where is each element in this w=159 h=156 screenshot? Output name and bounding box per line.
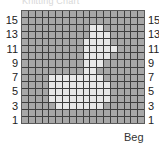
chart-cell	[111, 11, 117, 17]
chart-cell	[90, 39, 96, 45]
chart-cell	[111, 117, 117, 123]
chart-cell	[111, 39, 117, 45]
chart-cell	[118, 18, 124, 24]
chart-cell	[77, 11, 83, 17]
chart-cell	[118, 32, 124, 38]
chart-cell	[29, 110, 35, 116]
chart-cell	[111, 82, 117, 88]
chart-cell	[111, 46, 117, 52]
chart-cell	[56, 25, 62, 31]
row-label: 13	[6, 29, 18, 40]
chart-cell	[131, 39, 137, 45]
chart-cell	[104, 103, 110, 109]
chart-cell	[118, 11, 124, 17]
chart-cell	[49, 46, 55, 52]
chart-cell	[118, 96, 124, 102]
chart-cell	[118, 117, 124, 123]
chart-cell	[22, 89, 28, 95]
chart-cell	[125, 103, 131, 109]
chart-cell	[104, 25, 110, 31]
chart-cell	[77, 96, 83, 102]
chart-cell	[29, 39, 35, 45]
chart-cell	[104, 110, 110, 116]
chart-cell	[90, 75, 96, 81]
chart-cell	[43, 25, 49, 31]
chart-cell	[56, 32, 62, 38]
chart-cell	[36, 75, 42, 81]
chart-cell	[84, 18, 90, 24]
chart-cell	[131, 53, 137, 59]
chart-cell	[63, 110, 69, 116]
chart-cell	[131, 18, 137, 24]
chart-cell	[138, 11, 144, 17]
chart-cell	[49, 39, 55, 45]
chart-cell	[131, 103, 137, 109]
chart-cell	[131, 82, 137, 88]
chart-cell	[90, 46, 96, 52]
chart-cell	[90, 53, 96, 59]
chart-cell	[97, 96, 103, 102]
chart-cell	[77, 25, 83, 31]
row-label: 5	[148, 86, 154, 97]
chart-cell	[70, 110, 76, 116]
chart-cell	[43, 68, 49, 74]
chart-cell	[63, 32, 69, 38]
chart-cell	[90, 117, 96, 123]
chart-cell	[131, 46, 137, 52]
chart-cell	[22, 25, 28, 31]
chart-cell	[49, 110, 55, 116]
chart-cell	[97, 18, 103, 24]
chart-cell	[70, 117, 76, 123]
chart-cell	[43, 110, 49, 116]
chart-cell	[63, 53, 69, 59]
chart-cell	[63, 103, 69, 109]
chart-cell	[104, 32, 110, 38]
chart-cell	[36, 32, 42, 38]
row-label: 13	[148, 29, 159, 40]
chart-cell	[104, 82, 110, 88]
chart-cell	[84, 53, 90, 59]
chart-cell	[70, 89, 76, 95]
chart-cell	[49, 68, 55, 74]
chart-cell	[29, 82, 35, 88]
chart-cell	[131, 110, 137, 116]
chart-cell	[43, 82, 49, 88]
chart-cell	[125, 39, 131, 45]
chart-cell	[111, 110, 117, 116]
chart-cell	[104, 39, 110, 45]
chart-cell	[90, 25, 96, 31]
chart-cell	[63, 39, 69, 45]
chart-cell	[70, 46, 76, 52]
chart-cell	[29, 68, 35, 74]
row-label: 7	[148, 72, 154, 83]
chart-cell	[49, 82, 55, 88]
chart-cell	[70, 96, 76, 102]
chart-cell	[63, 68, 69, 74]
chart-cell	[29, 117, 35, 123]
chart-cell	[97, 25, 103, 31]
chart-cell	[131, 25, 137, 31]
chart-cell	[97, 89, 103, 95]
chart-cell	[77, 46, 83, 52]
chart-cell	[63, 46, 69, 52]
chart-cell	[29, 75, 35, 81]
chart-cell	[36, 39, 42, 45]
chart-cell	[138, 89, 144, 95]
chart-cell	[138, 25, 144, 31]
knitting-chart-grid	[21, 10, 145, 124]
chart-cell	[97, 11, 103, 17]
chart-cell	[84, 96, 90, 102]
chart-cell	[29, 18, 35, 24]
chart-cell	[43, 11, 49, 17]
chart-cell	[118, 68, 124, 74]
chart-cell	[138, 18, 144, 24]
chart-cell	[22, 11, 28, 17]
chart-cell	[84, 68, 90, 74]
chart-cell	[56, 60, 62, 66]
chart-cell	[29, 103, 35, 109]
chart-cell	[29, 25, 35, 31]
chart-cell	[90, 11, 96, 17]
chart-cell	[118, 89, 124, 95]
chart-cell	[29, 96, 35, 102]
chart-cell	[77, 117, 83, 123]
